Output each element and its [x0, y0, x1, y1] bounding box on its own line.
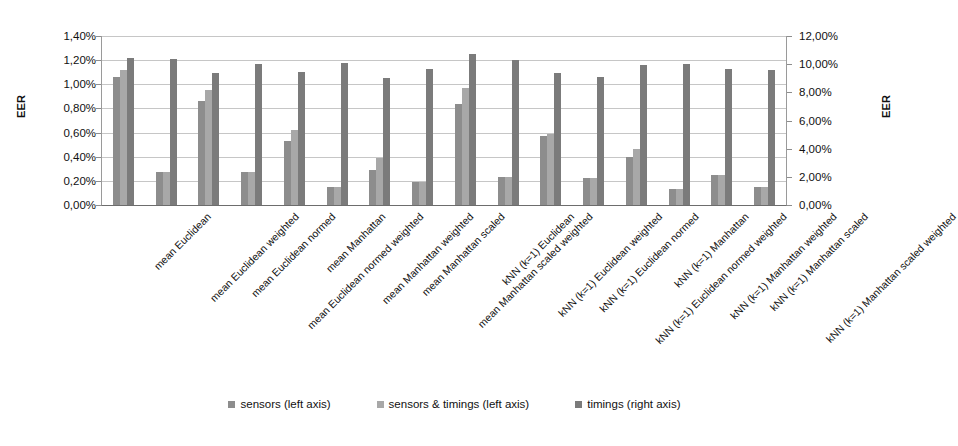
- legend-swatch-icon: [575, 401, 582, 408]
- bar-timings: [255, 64, 262, 205]
- y-tick-label-left: 1,40%: [34, 30, 96, 42]
- legend-label: timings (right axis): [587, 398, 680, 410]
- legend-swatch-icon: [228, 401, 235, 408]
- legend-item[interactable]: sensors (left axis): [228, 398, 330, 410]
- legend-item[interactable]: sensors & timings (left axis): [377, 398, 530, 410]
- bar-group: [743, 36, 786, 205]
- bar-group: [487, 36, 530, 205]
- bar-sensors-timings: [334, 187, 341, 205]
- bar-sensors: [241, 172, 248, 205]
- y-tick-label-right: 8,00%: [799, 86, 861, 98]
- bar-sensors: [156, 172, 163, 205]
- bar-group: [444, 36, 487, 205]
- bar-sensors: [113, 77, 120, 205]
- bar-sensors: [669, 189, 676, 205]
- y-tick-label-left: 0,80%: [34, 102, 96, 114]
- bar-group: [145, 36, 188, 205]
- bar-sensors: [284, 141, 291, 205]
- bar-sensors-timings: [462, 88, 469, 205]
- bar-group: [188, 36, 231, 205]
- y-axis-ticks-left: 1,40%1,20%1,00%0,80%0,60%0,40%0,20%0,00%: [34, 28, 96, 214]
- y-tickmark-left: [96, 60, 101, 61]
- bar-sensors: [540, 136, 547, 205]
- y-tick-label-left: 0,60%: [34, 127, 96, 139]
- bar-timings: [212, 73, 219, 205]
- bar-group: [102, 36, 145, 205]
- legend-swatch-icon: [377, 401, 384, 408]
- bar-group: [658, 36, 701, 205]
- bar-group: [230, 36, 273, 205]
- bar-timings: [597, 77, 604, 205]
- bar-timings: [768, 70, 775, 205]
- bar-timings: [640, 65, 647, 205]
- bar-timings: [170, 59, 177, 205]
- bar-timings: [341, 63, 348, 205]
- y-tickmark-right: [787, 64, 792, 65]
- y-tick-label-left: 0,20%: [34, 175, 96, 187]
- y-tickmark-right: [787, 177, 792, 178]
- bar-group: [359, 36, 402, 205]
- bar-sensors-timings: [633, 149, 640, 205]
- y-tickmark-left: [96, 181, 101, 182]
- x-axis-category-labels: mean Euclideanmean Euclidean weightedmea…: [101, 207, 785, 392]
- plot-area: [101, 36, 787, 206]
- y-tick-label-left: 1,20%: [34, 54, 96, 66]
- y-axis-ticks-right: 12,00%10,00%8,00%6,00%4,00%2,00%0,00%: [793, 28, 855, 214]
- y-tickmark-left: [96, 84, 101, 85]
- bar-group: [572, 36, 615, 205]
- bar-sensors-timings: [761, 187, 768, 205]
- bar-group: [615, 36, 658, 205]
- bar-timings: [683, 64, 690, 205]
- bar-timings: [725, 69, 732, 205]
- bar-timings: [127, 58, 134, 205]
- bar-sensors-timings: [291, 130, 298, 205]
- bar-sensors-timings: [376, 158, 383, 205]
- y-tick-label-right: 6,00%: [799, 115, 861, 127]
- bar-group: [701, 36, 744, 205]
- y-tickmark-left: [96, 205, 101, 206]
- bar-sensors-timings: [419, 182, 426, 205]
- x-axis-label: kNN (k=1) Euclidean: [501, 211, 577, 287]
- x-axis-label: mean Euclidean: [152, 211, 213, 272]
- y-tick-label-left: 1,00%: [34, 78, 96, 90]
- y-tickmark-right: [787, 36, 792, 37]
- bar-sensors: [369, 170, 376, 205]
- bar-groups: [102, 36, 786, 205]
- bar-sensors-timings: [248, 172, 255, 205]
- bar-group: [316, 36, 359, 205]
- bar-sensors-timings: [205, 90, 212, 205]
- bar-timings: [469, 54, 476, 205]
- bar-group: [401, 36, 444, 205]
- bar-timings: [554, 73, 561, 205]
- y-axis-title-right: EER: [880, 95, 892, 118]
- bar-timings: [512, 60, 519, 205]
- bar-sensors: [583, 178, 590, 205]
- gridline: [102, 205, 786, 206]
- bar-sensors: [412, 182, 419, 205]
- y-tick-label-right: 4,00%: [799, 143, 861, 155]
- y-tickmark-left: [96, 36, 101, 37]
- y-tickmark-right: [787, 121, 792, 122]
- legend-label: sensors (left axis): [240, 398, 330, 410]
- bar-timings: [426, 69, 433, 205]
- legend-item[interactable]: timings (right axis): [575, 398, 680, 410]
- bar-timings: [298, 72, 305, 205]
- bar-sensors-timings: [676, 189, 683, 205]
- y-axis-title-left: EER: [15, 95, 27, 118]
- bar-sensors: [626, 157, 633, 205]
- y-tick-label-right: 2,00%: [799, 171, 861, 183]
- bar-sensors: [754, 187, 761, 205]
- y-tickmark-left: [96, 133, 101, 134]
- y-tickmark-left: [96, 157, 101, 158]
- bar-sensors: [711, 175, 718, 205]
- legend-label: sensors & timings (left axis): [389, 398, 530, 410]
- y-tick-label-left: 0,00%: [34, 199, 96, 211]
- bar-sensors: [455, 104, 462, 205]
- bar-group: [530, 36, 573, 205]
- y-tickmark-right: [787, 149, 792, 150]
- bar-sensors-timings: [718, 175, 725, 205]
- bar-sensors: [498, 177, 505, 205]
- y-tickmark-left: [96, 108, 101, 109]
- chart-legend: sensors (left axis)sensors & timings (le…: [0, 398, 909, 410]
- y-tick-label-left: 0,40%: [34, 151, 96, 163]
